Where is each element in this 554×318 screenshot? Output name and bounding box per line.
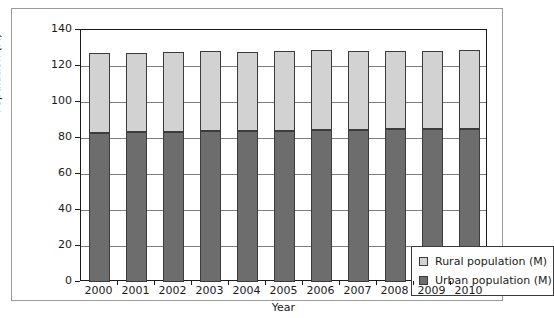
legend-swatch-rural <box>419 257 428 266</box>
x-tick-label: 2007 <box>338 285 378 296</box>
bar-group <box>422 30 443 282</box>
bar-group <box>200 30 221 282</box>
y-tick-label: 140 <box>30 23 72 34</box>
bar-group <box>163 30 184 282</box>
y-tick-label: 40 <box>30 203 72 214</box>
bar-segment-urban <box>274 131 295 282</box>
legend-label-rural: Rural population (M) <box>435 255 547 268</box>
bar-group <box>237 30 258 282</box>
x-tick-label: 2006 <box>301 285 341 296</box>
bar-segment-rural <box>348 51 369 130</box>
bar-group <box>385 30 406 282</box>
bar-group <box>311 30 332 282</box>
bar-segment-urban <box>385 129 406 282</box>
bar-segment-urban <box>126 132 147 282</box>
y-tick-label: 60 <box>30 167 72 178</box>
x-tick-label: 2001 <box>116 285 156 296</box>
y-tick-mark <box>75 245 80 246</box>
x-tick-label: 2010 <box>449 285 489 296</box>
bar-segment-rural <box>237 52 258 131</box>
bar-segment-urban <box>311 130 332 282</box>
bar-segment-rural <box>126 53 147 132</box>
bar-segment-urban <box>163 132 184 282</box>
y-tick-label: 120 <box>30 59 72 70</box>
x-tick-label: 2005 <box>264 285 304 296</box>
bar-segment-urban <box>89 133 110 282</box>
y-tick-label: 100 <box>30 95 72 106</box>
bar-group <box>348 30 369 282</box>
y-tick-mark <box>75 281 80 282</box>
y-tick-label: 0 <box>30 275 72 286</box>
bar-segment-urban <box>237 131 258 282</box>
bar-segment-rural <box>422 51 443 129</box>
y-tick-mark <box>75 65 80 66</box>
y-tick-mark <box>75 137 80 138</box>
bar-segment-rural <box>89 53 110 133</box>
y-tick-mark <box>75 209 80 210</box>
bar-segment-rural <box>459 50 480 128</box>
bar-segment-rural <box>163 52 184 131</box>
bar-segment-urban <box>348 130 369 282</box>
legend-item-rural: Rural population (M) <box>419 252 546 271</box>
x-tick-label: 2009 <box>412 285 452 296</box>
bar-segment-rural <box>200 51 221 131</box>
x-tick-label: 2008 <box>375 285 415 296</box>
y-axis-title: Population (M) <box>0 34 3 113</box>
bar-segment-urban <box>200 131 221 282</box>
plot-area: Rural population (M) Urban population (M… <box>80 29 487 281</box>
bar-group <box>89 30 110 282</box>
x-axis-title: Year <box>80 301 487 314</box>
y-tick-mark <box>75 29 80 30</box>
y-tick-label: 80 <box>30 131 72 142</box>
x-tick-label: 2003 <box>190 285 230 296</box>
bar-group <box>126 30 147 282</box>
bar-group <box>459 30 480 282</box>
bar-segment-rural <box>274 51 295 131</box>
bar-segment-rural <box>311 50 332 130</box>
x-tick-label: 2002 <box>153 285 193 296</box>
bar-segment-rural <box>385 51 406 129</box>
bar-group <box>274 30 295 282</box>
figure-frame: Population (M) Rural population (M) Urba… <box>11 8 503 301</box>
y-tick-mark <box>75 101 80 102</box>
x-tick-label: 2000 <box>79 285 119 296</box>
y-tick-label: 20 <box>30 239 72 250</box>
y-tick-mark <box>75 173 80 174</box>
x-tick-label: 2004 <box>227 285 267 296</box>
